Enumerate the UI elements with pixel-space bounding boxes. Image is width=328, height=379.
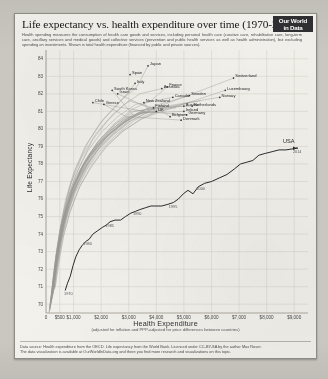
country-label: Italy (137, 79, 145, 84)
country-label: Chile (95, 98, 104, 103)
y-axis-tick: 70 (29, 302, 43, 307)
year-marker-label: 2000 (196, 187, 204, 191)
y-axis-tick: 80 (29, 126, 43, 131)
chart-svg (15, 14, 316, 358)
country-label: Greece (106, 100, 119, 105)
y-axis-tick: 84 (29, 56, 43, 61)
y-axis-tick: 72 (29, 267, 43, 272)
y-axis-tick: 71 (29, 284, 43, 289)
chart-card: Life expectancy vs. health expenditure o… (14, 13, 317, 359)
chart-plot-area: 7071727374757677787980818283840$500$1,00… (15, 14, 316, 358)
y-axis-tick: 83 (29, 74, 43, 79)
x-axis-sublabel: (adjusted for inflation and PPP-adjusted… (15, 327, 316, 332)
country-label: USA (283, 138, 295, 144)
year-marker-label: 1990 (133, 212, 141, 216)
screenshot-root: Life expectancy vs. health expenditure o… (0, 0, 328, 379)
year-marker-label: 2014 (293, 150, 301, 154)
country-label: UK (158, 107, 164, 112)
footer-line-2: The data visualization is available at O… (20, 349, 311, 354)
country-label: Luxembourg (227, 86, 250, 91)
country-label: Sweden (191, 91, 206, 96)
year-marker-label: 1995 (169, 205, 177, 209)
y-axis-tick: 82 (29, 91, 43, 96)
y-axis-tick: 73 (29, 249, 43, 254)
year-marker-label: 1970 (64, 292, 72, 296)
country-label: Germany (188, 110, 205, 115)
year-marker-label: 1985 (105, 224, 113, 228)
chart-footer: Data source: Health expenditure from the… (20, 341, 311, 354)
y-axis-tick: 74 (29, 232, 43, 237)
country-label: Norway (222, 93, 236, 98)
country-label: France (169, 82, 182, 87)
country-label: New Zealand (146, 98, 170, 103)
country-label: Japan (150, 61, 161, 66)
y-axis-label: Life Expectancy (26, 133, 33, 203)
country-label: Canada (175, 93, 189, 98)
y-axis-tick: 75 (29, 214, 43, 219)
country-label: Switzerland (235, 73, 256, 78)
country-label: Israel (120, 89, 130, 94)
country-label: Denmark (183, 116, 200, 121)
year-marker-label: 1980 (83, 242, 91, 246)
y-axis-tick: 81 (29, 109, 43, 114)
country-label: Netherlands (194, 102, 216, 107)
country-label: Spain (132, 70, 142, 75)
